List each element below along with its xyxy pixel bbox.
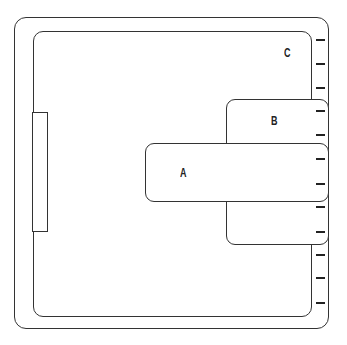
tick-mark (316, 158, 325, 160)
panel-a (145, 143, 329, 202)
label-a: A (180, 166, 187, 180)
label-c: C (284, 46, 291, 60)
label-b: B (271, 114, 278, 128)
tick-mark (316, 231, 325, 233)
side-handle (32, 112, 48, 232)
tick-mark (316, 110, 325, 112)
tick-mark (316, 87, 325, 89)
tick-mark (316, 63, 325, 65)
tick-mark (316, 206, 325, 208)
tick-mark (316, 302, 325, 304)
tick-mark (316, 254, 325, 256)
tick-mark (316, 39, 325, 41)
tick-mark (316, 277, 325, 279)
tick-mark (316, 183, 325, 185)
tick-mark (316, 134, 325, 136)
